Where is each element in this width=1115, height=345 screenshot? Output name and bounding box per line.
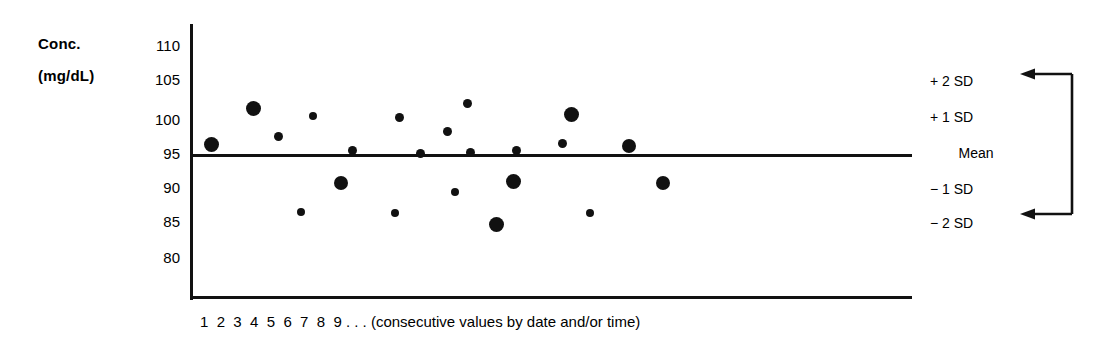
data-point: [348, 146, 357, 155]
data-point: [506, 174, 521, 189]
data-point: [622, 139, 636, 153]
data-point: [391, 209, 399, 217]
data-point: [558, 139, 567, 148]
y-axis-title: Conc. (mg/dL): [38, 28, 148, 92]
data-point: [564, 107, 579, 122]
y-axis-tick-label: 110: [136, 38, 180, 53]
y-axis-tick-label: 95: [136, 146, 180, 161]
y-axis-title-line-1: Conc.: [38, 28, 148, 60]
x-axis-caption: 1 2 3 4 5 6 7 8 9 . . . (consecutive val…: [200, 313, 640, 331]
levey-jennings-chart: Conc. (mg/dL) 11010510095908580 1 2 3 4 …: [0, 0, 1115, 345]
y-axis-tick-label: 85: [136, 214, 180, 229]
sd-legend-label: − 1 SD: [930, 182, 1022, 196]
data-point: [309, 112, 317, 120]
data-point: [443, 127, 452, 136]
sd-legend-label: − 2 SD: [930, 216, 1022, 230]
data-point: [246, 101, 261, 116]
mean-reference-line: [190, 154, 912, 157]
sd-legend-label: Mean: [930, 146, 1022, 160]
data-point: [416, 149, 425, 158]
data-point: [451, 188, 459, 196]
data-point: [297, 208, 305, 216]
data-point: [466, 148, 475, 157]
data-point: [489, 217, 504, 232]
sd-legend-label: + 2 SD: [930, 74, 1022, 88]
y-axis-tick-label: 80: [136, 250, 180, 265]
data-point: [334, 176, 348, 190]
x-axis-line: [190, 296, 912, 299]
arrow-bracket-icon: [1018, 66, 1080, 222]
data-point: [512, 146, 521, 155]
data-point: [204, 137, 219, 152]
data-point: [274, 132, 283, 141]
data-point: [656, 176, 670, 190]
y-axis-tick-label: 100: [136, 112, 180, 127]
y-axis-line: [190, 24, 193, 300]
data-point: [586, 209, 594, 217]
data-point: [463, 99, 472, 108]
y-axis-title-line-2: (mg/dL): [38, 60, 148, 92]
sd-legend-label: + 1 SD: [930, 110, 1022, 124]
data-point: [395, 113, 404, 122]
y-axis-tick-label: 105: [136, 72, 180, 87]
y-axis-tick-label: 90: [136, 180, 180, 195]
